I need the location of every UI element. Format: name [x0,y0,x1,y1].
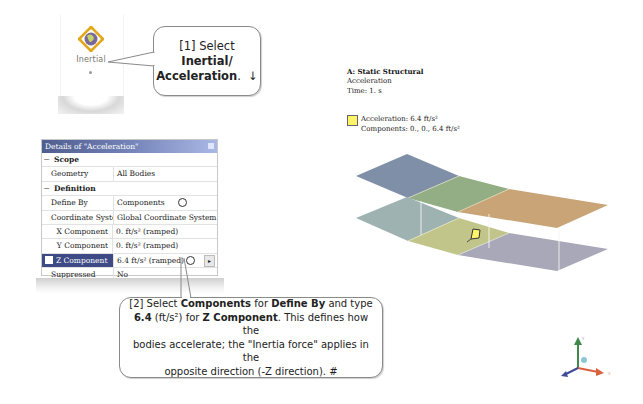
viewport-subtitle: Acceleration [347,77,392,85]
callout-1-pointer [108,52,154,66]
viewport-title: A: Static Structural [347,67,423,76]
axis-triad-icon: Y X [561,336,611,377]
svg-text:X: X [608,371,611,376]
callout-leaders: Y X [0,0,643,404]
legend-components: Components: 0., 0., 6.4 ft/s² [361,125,460,133]
svg-text:Y: Y [581,336,585,341]
legend-acceleration: Acceleration: 6.4 ft/s² [361,115,438,123]
legend-swatch [347,115,358,126]
viewport-time: Time: 1. s [347,87,382,95]
